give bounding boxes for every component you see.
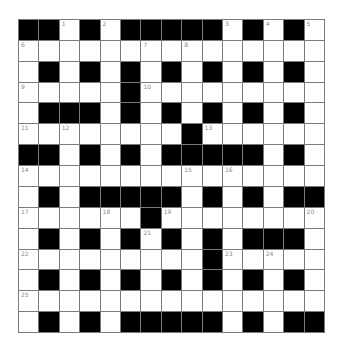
answer-cell[interactable] — [121, 124, 140, 144]
answer-cell[interactable]: 5 — [305, 20, 324, 40]
answer-cell[interactable] — [264, 124, 283, 144]
answer-cell[interactable] — [141, 270, 160, 290]
answer-cell[interactable] — [60, 41, 79, 61]
answer-cell[interactable] — [162, 291, 181, 311]
answer-cell[interactable] — [141, 124, 160, 144]
answer-cell[interactable] — [223, 208, 242, 228]
answer-cell[interactable] — [101, 124, 120, 144]
answer-cell[interactable] — [162, 124, 181, 144]
answer-cell[interactable] — [101, 250, 120, 270]
answer-cell[interactable]: 23 — [223, 250, 242, 270]
answer-cell[interactable] — [203, 83, 222, 103]
answer-cell[interactable] — [182, 270, 201, 290]
answer-cell[interactable] — [162, 83, 181, 103]
answer-cell[interactable] — [19, 229, 38, 249]
answer-cell[interactable] — [223, 41, 242, 61]
answer-cell[interactable] — [60, 83, 79, 103]
answer-cell[interactable] — [60, 62, 79, 82]
answer-cell[interactable] — [80, 250, 99, 270]
answer-cell[interactable] — [60, 145, 79, 165]
answer-cell[interactable] — [162, 250, 181, 270]
answer-cell[interactable] — [203, 291, 222, 311]
answer-cell[interactable] — [264, 312, 283, 332]
answer-cell[interactable] — [223, 291, 242, 311]
answer-cell[interactable] — [284, 41, 303, 61]
answer-cell[interactable]: 22 — [19, 250, 38, 270]
answer-cell[interactable] — [121, 208, 140, 228]
answer-cell[interactable]: 12 — [60, 124, 79, 144]
answer-cell[interactable] — [101, 229, 120, 249]
answer-cell[interactable] — [80, 124, 99, 144]
answer-cell[interactable] — [182, 83, 201, 103]
answer-cell[interactable] — [305, 124, 324, 144]
answer-cell[interactable] — [162, 41, 181, 61]
answer-cell[interactable]: 15 — [182, 166, 201, 186]
answer-cell[interactable] — [101, 312, 120, 332]
answer-cell[interactable]: 11 — [19, 124, 38, 144]
answer-cell[interactable] — [305, 291, 324, 311]
answer-cell[interactable] — [60, 312, 79, 332]
answer-cell[interactable] — [305, 270, 324, 290]
answer-cell[interactable] — [182, 103, 201, 123]
answer-cell[interactable] — [60, 250, 79, 270]
answer-cell[interactable] — [223, 270, 242, 290]
answer-cell[interactable] — [60, 166, 79, 186]
answer-cell[interactable] — [243, 83, 262, 103]
answer-cell[interactable]: 9 — [19, 83, 38, 103]
answer-cell[interactable] — [264, 291, 283, 311]
answer-cell[interactable] — [264, 103, 283, 123]
answer-cell[interactable] — [305, 229, 324, 249]
answer-cell[interactable] — [121, 291, 140, 311]
answer-cell[interactable] — [60, 229, 79, 249]
answer-cell[interactable] — [284, 83, 303, 103]
answer-cell[interactable] — [305, 145, 324, 165]
answer-cell[interactable] — [101, 270, 120, 290]
answer-cell[interactable] — [182, 62, 201, 82]
answer-cell[interactable] — [19, 187, 38, 207]
answer-cell[interactable] — [39, 41, 58, 61]
answer-cell[interactable] — [80, 208, 99, 228]
answer-cell[interactable] — [39, 83, 58, 103]
answer-cell[interactable] — [19, 62, 38, 82]
answer-cell[interactable]: 6 — [19, 41, 38, 61]
answer-cell[interactable] — [101, 103, 120, 123]
answer-cell[interactable] — [203, 208, 222, 228]
answer-cell[interactable] — [39, 250, 58, 270]
answer-cell[interactable]: 14 — [19, 166, 38, 186]
answer-cell[interactable] — [141, 166, 160, 186]
answer-cell[interactable] — [121, 41, 140, 61]
answer-cell[interactable] — [284, 124, 303, 144]
answer-cell[interactable] — [264, 62, 283, 82]
answer-cell[interactable] — [39, 124, 58, 144]
answer-cell[interactable] — [223, 62, 242, 82]
answer-cell[interactable]: 1 — [60, 20, 79, 40]
answer-cell[interactable] — [264, 83, 283, 103]
answer-cell[interactable] — [203, 166, 222, 186]
answer-cell[interactable] — [101, 41, 120, 61]
answer-cell[interactable] — [243, 291, 262, 311]
answer-cell[interactable]: 18 — [101, 208, 120, 228]
answer-cell[interactable] — [305, 41, 324, 61]
answer-cell[interactable] — [101, 62, 120, 82]
answer-cell[interactable] — [182, 229, 201, 249]
answer-cell[interactable] — [80, 41, 99, 61]
answer-cell[interactable] — [284, 291, 303, 311]
answer-cell[interactable] — [264, 41, 283, 61]
answer-cell[interactable] — [264, 166, 283, 186]
answer-cell[interactable] — [305, 250, 324, 270]
answer-cell[interactable] — [182, 187, 201, 207]
answer-cell[interactable] — [80, 291, 99, 311]
answer-cell[interactable] — [60, 270, 79, 290]
answer-cell[interactable] — [203, 41, 222, 61]
answer-cell[interactable]: 25 — [19, 291, 38, 311]
answer-cell[interactable] — [264, 187, 283, 207]
answer-cell[interactable] — [141, 103, 160, 123]
answer-cell[interactable] — [223, 312, 242, 332]
answer-cell[interactable]: 7 — [141, 41, 160, 61]
answer-cell[interactable]: 20 — [305, 208, 324, 228]
answer-cell[interactable] — [141, 291, 160, 311]
answer-cell[interactable] — [80, 83, 99, 103]
answer-cell[interactable] — [243, 208, 262, 228]
answer-cell[interactable] — [264, 208, 283, 228]
answer-cell[interactable]: 8 — [182, 41, 201, 61]
